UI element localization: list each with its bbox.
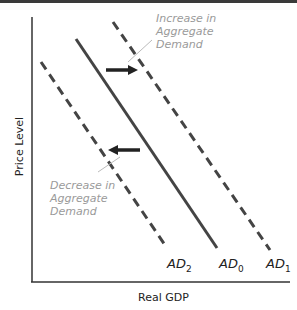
- decrease-line-3: Demand: [50, 205, 115, 218]
- curve-ad2: [41, 62, 167, 248]
- x-axis-label: Real GDP: [138, 291, 189, 304]
- increase-annotation: Increase in Aggregate Demand: [156, 12, 216, 51]
- decrease-line-2: Aggregate: [50, 192, 115, 205]
- label-ad0: AD0: [219, 256, 244, 274]
- decrease-line-1: Decrease in: [50, 179, 115, 192]
- y-axis-label: Price Level: [13, 112, 26, 182]
- decrease-annotation: Decrease in Aggregate Demand: [50, 179, 115, 218]
- increase-arrow: [106, 65, 138, 75]
- label-ad1: AD1: [266, 256, 291, 274]
- label-ad2: AD2: [167, 256, 192, 274]
- increase-line-3: Demand: [156, 38, 216, 51]
- decrease-leader-line: [98, 157, 120, 172]
- increase-line-2: Aggregate: [156, 25, 216, 38]
- ad-diagram: [0, 0, 297, 310]
- decrease-arrow: [108, 145, 140, 155]
- curve-ad1: [113, 22, 270, 250]
- increase-line-1: Increase in: [156, 12, 216, 25]
